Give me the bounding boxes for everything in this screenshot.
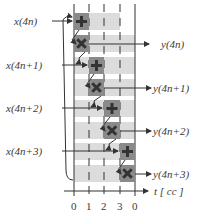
- tick-label-4: 0: [132, 200, 138, 212]
- pipeline-timing-diagram: x(4n) x(4n+1) x(4n+2) x(4n+3) y(4n) y(4n…: [0, 0, 198, 219]
- output-label-y4n3: y(4n+3): [153, 168, 189, 180]
- tick-label-2: 2: [101, 200, 107, 212]
- tick-label-1: 1: [86, 200, 92, 212]
- time-axis-label: t [ cc ]: [154, 185, 184, 197]
- output-label-y4n1: y(4n+1): [153, 82, 189, 94]
- output-label-y4n2: y(4n+2): [153, 125, 189, 137]
- tick-label-0: 0: [71, 200, 77, 212]
- input-label-x4n2: x(4n+2): [6, 102, 42, 114]
- output-label-y4n: y(4n): [161, 38, 184, 50]
- tick-label-3: 3: [117, 200, 123, 212]
- input-label-x4n: x(4n): [14, 15, 37, 27]
- input-label-x4n1: x(4n+1): [6, 59, 42, 71]
- input-label-x4n3: x(4n+3): [6, 145, 42, 157]
